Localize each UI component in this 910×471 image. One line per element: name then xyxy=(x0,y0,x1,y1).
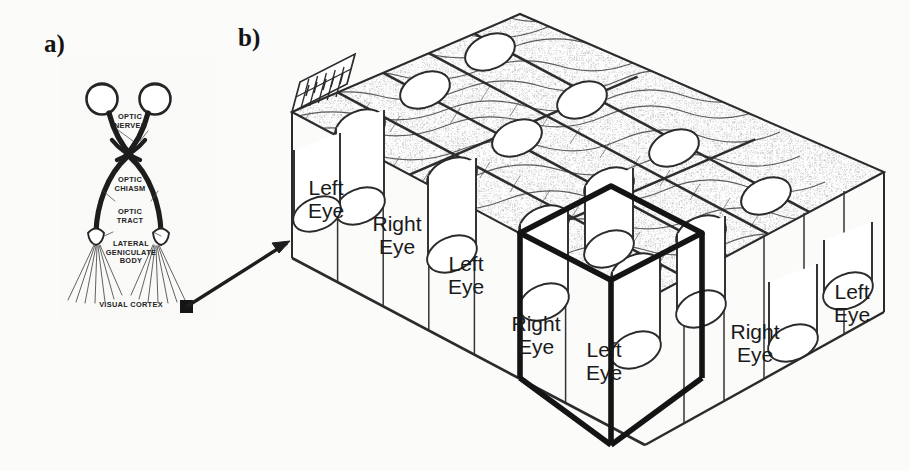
panel-label-b: b) xyxy=(238,24,260,52)
column-label-right-eye-3: Right Eye xyxy=(727,320,783,366)
column-label-left-eye-2: Left Eye xyxy=(442,252,490,298)
label-optic-nerves: OPTIC NERVES xyxy=(101,113,159,130)
label-optic-chiasm: OPTIC CHIASM xyxy=(101,176,159,193)
column-label-right-eye-1: Right Eye xyxy=(369,212,425,258)
label-lateral-geniculate-body: LATERAL GENICULATE BODY xyxy=(94,240,168,266)
panel-b-drawing xyxy=(0,0,910,471)
column-label-left-eye-3: Left Eye xyxy=(580,338,628,384)
column-label-left-eye-1: Left Eye xyxy=(302,176,350,222)
panel-label-a: a) xyxy=(44,30,65,58)
label-visual-cortex: VISUAL CORTEX xyxy=(85,301,177,310)
figure-root: a) b) OPTIC NERVES OPTIC CHIASM OPTIC TR… xyxy=(0,0,910,471)
label-optic-tract: OPTIC TRACT xyxy=(104,208,156,225)
column-label-left-eye-4: Left Eye xyxy=(828,280,876,326)
column-label-right-eye-2: Right Eye xyxy=(508,312,564,358)
